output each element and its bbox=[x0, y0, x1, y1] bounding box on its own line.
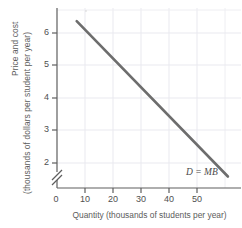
origin-label-zero: 0 bbox=[50, 194, 62, 204]
y-tick-label-2: 2 bbox=[37, 157, 49, 167]
y-tick-label-4: 4 bbox=[37, 92, 49, 102]
x-tick-label-40: 40 bbox=[161, 194, 177, 204]
y-axis-ticks bbox=[52, 33, 57, 163]
demand-curve-label: D = MB bbox=[186, 167, 218, 177]
x-tick-label-10: 10 bbox=[77, 194, 93, 204]
y-tick-label-3: 3 bbox=[37, 124, 49, 134]
demand-curve bbox=[77, 21, 228, 176]
x-tick-label-30: 30 bbox=[133, 194, 149, 204]
x-tick-label-50: 50 bbox=[189, 194, 205, 204]
y-tick-label-6: 6 bbox=[37, 27, 49, 37]
speck-artifact bbox=[85, 10, 86, 11]
chart-figure: Price and cost (thousands of dollars per… bbox=[0, 0, 242, 228]
y-tick-label-5: 5 bbox=[37, 59, 49, 69]
y-axis-units-label: (thousands of dollars per student per ye… bbox=[22, 32, 32, 194]
x-tick-label-20: 20 bbox=[105, 194, 121, 204]
x-axis-title: Quantity (thousands of students per year… bbox=[57, 210, 242, 220]
y-axis-title: Price and cost bbox=[10, 22, 20, 76]
x-axis-ticks bbox=[85, 188, 197, 193]
